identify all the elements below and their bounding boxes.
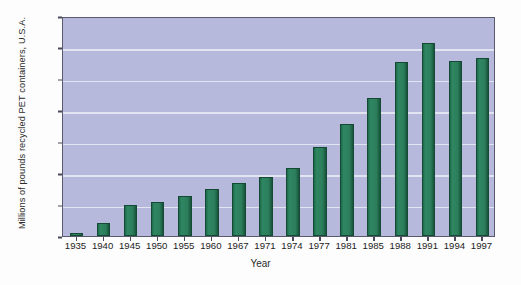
bar <box>422 43 436 236</box>
bar <box>259 177 273 236</box>
bar <box>205 189 219 236</box>
x-axis-tick-label: 1997 <box>461 240 501 251</box>
bar <box>232 183 246 236</box>
bar <box>286 168 300 236</box>
x-axis-title: Year <box>0 258 521 269</box>
bar <box>178 196 192 236</box>
bar <box>449 61 463 236</box>
bar <box>395 62 409 236</box>
bar <box>97 223 111 236</box>
bar <box>367 98 381 236</box>
bar-chart-figure: Millions of pounds recycled PET containe… <box>0 0 521 285</box>
plot-area <box>62 17 495 237</box>
bar <box>151 202 165 236</box>
bar <box>340 124 354 236</box>
y-axis-title: Millions of pounds recycled PET containe… <box>17 7 27 239</box>
bar <box>313 147 327 236</box>
bar <box>124 205 138 236</box>
bar <box>476 58 490 236</box>
bar <box>70 233 84 236</box>
